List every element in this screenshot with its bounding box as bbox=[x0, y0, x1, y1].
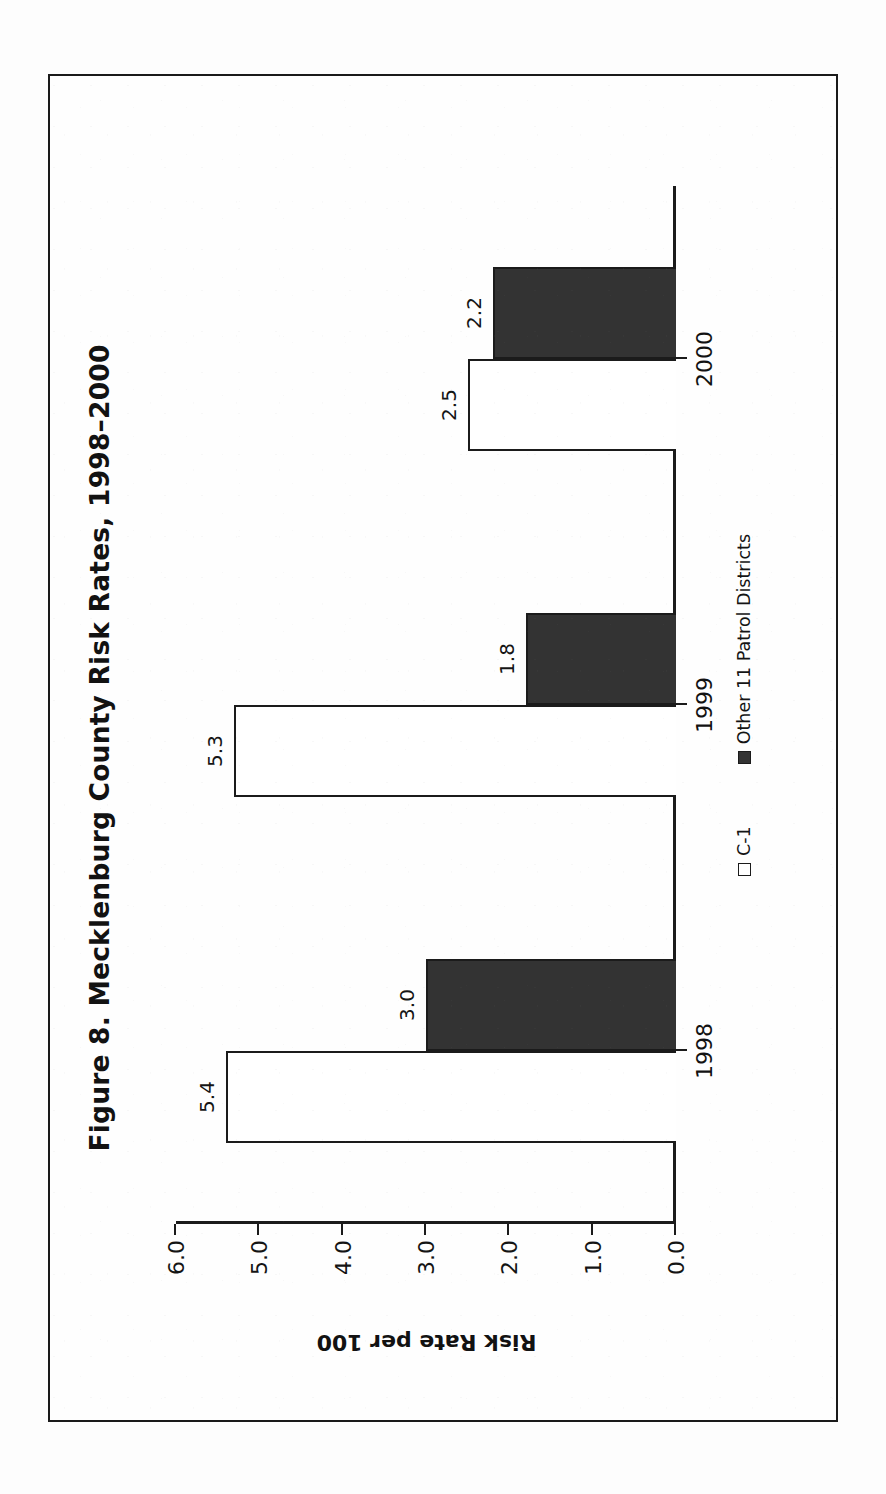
legend-item-other[interactable]: Other 11 Patrol Districts bbox=[734, 534, 754, 764]
figure-page: Figure 8. Mecklenburg County Risk Rates,… bbox=[0, 0, 886, 1494]
y-tick-mark bbox=[591, 1224, 593, 1235]
y-tick-label: 6.0 bbox=[164, 1240, 189, 1275]
bar-c1[interactable]: 5.4 bbox=[226, 1051, 676, 1143]
y-tick-label: 5.0 bbox=[247, 1240, 272, 1275]
x-category-label: 2000 bbox=[692, 186, 717, 532]
x-tick-mark bbox=[676, 703, 687, 705]
figure-frame: Figure 8. Mecklenburg County Risk Rates,… bbox=[48, 74, 838, 1422]
x-category-label: 1999 bbox=[692, 532, 717, 878]
bar-value-label: 3.0 bbox=[395, 989, 419, 1021]
y-tick-label: 1.0 bbox=[580, 1240, 605, 1275]
bar-value-label: 2.5 bbox=[437, 389, 461, 421]
bar-c1[interactable]: 2.5 bbox=[468, 359, 676, 451]
y-tick-mark bbox=[674, 1224, 676, 1235]
y-tick-mark bbox=[174, 1224, 176, 1235]
y-tick-label: 0.0 bbox=[664, 1240, 689, 1275]
y-tick-label: 2.0 bbox=[497, 1240, 522, 1275]
chart-title: Figure 8. Mecklenburg County Risk Rates,… bbox=[84, 76, 115, 1420]
bar-value-label: 5.4 bbox=[195, 1081, 219, 1113]
bar-other[interactable]: 1.8 bbox=[526, 613, 676, 705]
legend-label: C-1 bbox=[734, 826, 754, 856]
y-tick-mark bbox=[507, 1224, 509, 1235]
bar-group: 5.31.81999 bbox=[176, 532, 676, 878]
bar-group: 2.52.22000 bbox=[176, 186, 676, 532]
legend-swatch-icon bbox=[738, 863, 751, 876]
bar-other[interactable]: 3.0 bbox=[426, 959, 676, 1051]
x-category-label: 1998 bbox=[692, 878, 717, 1224]
y-tick-mark bbox=[341, 1224, 343, 1235]
x-tick-mark bbox=[676, 357, 687, 359]
plot-area: 0.01.02.03.04.05.06.0 5.43.019985.31.819… bbox=[176, 186, 676, 1224]
bar-value-label: 5.3 bbox=[203, 735, 227, 767]
bar-c1[interactable]: 5.3 bbox=[234, 705, 676, 797]
y-tick-label: 4.0 bbox=[330, 1240, 355, 1275]
x-tick-mark bbox=[676, 1049, 687, 1051]
legend-label: Other 11 Patrol Districts bbox=[734, 534, 754, 744]
legend-item-c1[interactable]: C-1 bbox=[734, 826, 754, 876]
chart-area: Figure 8. Mecklenburg County Risk Rates,… bbox=[50, 76, 836, 1420]
y-tick-mark bbox=[257, 1224, 259, 1235]
y-axis-title: Risk Rate per 100 bbox=[176, 1322, 676, 1362]
bar-value-label: 2.2 bbox=[462, 297, 486, 329]
legend: C-1Other 11 Patrol Districts bbox=[734, 186, 754, 1224]
bar-pair: 5.43.0 bbox=[176, 878, 676, 1224]
bar-group: 5.43.01998 bbox=[176, 878, 676, 1224]
y-axis-title-text: Risk Rate per 100 bbox=[316, 1329, 536, 1354]
bar-other[interactable]: 2.2 bbox=[493, 267, 676, 359]
legend-swatch-icon bbox=[738, 751, 751, 764]
bar-pair: 5.31.8 bbox=[176, 532, 676, 878]
y-tick-label: 3.0 bbox=[414, 1240, 439, 1275]
bar-pair: 2.52.2 bbox=[176, 186, 676, 532]
rotated-chart-container: Figure 8. Mecklenburg County Risk Rates,… bbox=[50, 76, 836, 1420]
y-tick-mark bbox=[424, 1224, 426, 1235]
bar-value-label: 1.8 bbox=[495, 643, 519, 675]
